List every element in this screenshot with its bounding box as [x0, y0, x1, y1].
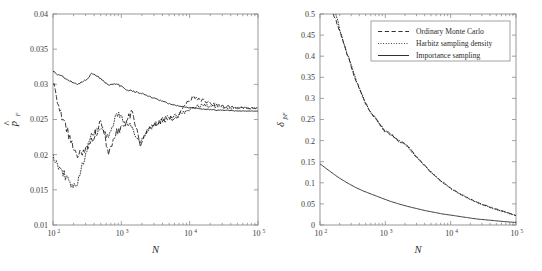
plot-frame	[53, 14, 258, 225]
y-tick-label: 0.45	[301, 31, 315, 40]
series-curve-solid	[53, 71, 258, 111]
series-curve-dotted	[53, 104, 258, 188]
x-tick-label: 102	[48, 228, 61, 239]
x-tick-label: 103	[380, 228, 393, 239]
x-tick-label: 104	[445, 228, 458, 239]
panel-left-panel: 1021031041050.010.0150.020.0250.030.0350…	[2, 10, 266, 255]
x-tick-mantissa: 10	[380, 229, 388, 238]
x-axis-label: N	[151, 244, 160, 255]
series-curve-solid	[320, 164, 516, 223]
y-tick-label: 0.05	[301, 200, 315, 209]
x-tick-exponent: 5	[263, 228, 266, 234]
x-tick-exponent: 3	[390, 228, 393, 234]
legend: Ordinary Monte CarloHarbitz sampling den…	[371, 21, 510, 61]
x-tick-label: 105	[511, 228, 524, 239]
y-tick-label: 0.04	[34, 10, 48, 19]
y-axis-label: p^F	[2, 112, 21, 128]
y-tick-label: 0.15	[301, 158, 315, 167]
y-tick-label: 0.03	[34, 80, 48, 89]
y-tick-label: 0.4	[305, 52, 315, 61]
x-tick-mantissa: 10	[445, 229, 453, 238]
y-tick-label: 0.35	[301, 73, 315, 82]
y-tick-label: 0.25	[301, 115, 315, 124]
y-axis-label-subscript: F	[14, 112, 21, 118]
x-tick-exponent: 2	[325, 228, 328, 234]
y-tick-label: 0.035	[30, 45, 48, 54]
x-tick-label: 104	[184, 228, 197, 239]
x-axis-label: N	[413, 244, 422, 255]
x-tick-exponent: 5	[521, 228, 524, 234]
y-axis-label-hat: ^	[2, 120, 13, 126]
figure-container: 1021031041050.010.0150.020.0250.030.0350…	[0, 0, 542, 271]
y-tick-label: 0.025	[30, 115, 48, 124]
y-tick-label: 0.5	[305, 10, 315, 19]
y-axis-label-subscript: p̂F	[281, 111, 288, 120]
x-tick-exponent: 4	[194, 228, 197, 234]
y-tick-label: 0.01	[34, 221, 48, 230]
curves-group	[53, 71, 258, 187]
x-tick-label: 102	[315, 228, 328, 239]
legend-label: Ordinary Monte Carlo	[416, 27, 484, 36]
x-tick-mantissa: 10	[315, 229, 323, 238]
y-tick-label: 0.02	[34, 151, 48, 160]
x-tick-mantissa: 10	[184, 229, 192, 238]
legend-label: Harbitz sampling density	[416, 39, 493, 48]
y-tick-label: 0	[311, 221, 315, 230]
y-axis-label: δp̂F	[275, 111, 288, 127]
x-tick-mantissa: 10	[253, 229, 261, 238]
y-axis-label-base: δ	[275, 121, 286, 127]
y-tick-label: 0.1	[305, 179, 315, 188]
x-tick-mantissa: 10	[116, 229, 124, 238]
legend-label: Importance sampling	[416, 51, 481, 60]
x-tick-mantissa: 10	[511, 229, 519, 238]
y-tick-label: 0.2	[305, 137, 315, 146]
x-tick-mantissa: 10	[48, 229, 56, 238]
x-tick-label: 105	[253, 228, 266, 239]
panel-right-panel: 10210310410500.050.10.150.20.250.30.350.…	[275, 10, 524, 255]
y-tick-label: 0.3	[305, 94, 315, 103]
y-tick-label: 0.015	[30, 186, 48, 195]
two-panel-convergence-figure: 1021031041050.010.0150.020.0250.030.0350…	[0, 0, 542, 271]
x-tick-exponent: 3	[126, 228, 129, 234]
x-tick-label: 103	[116, 228, 129, 239]
x-tick-exponent: 4	[455, 228, 458, 234]
x-tick-exponent: 2	[58, 228, 61, 234]
series-curve-dashed	[53, 83, 258, 157]
